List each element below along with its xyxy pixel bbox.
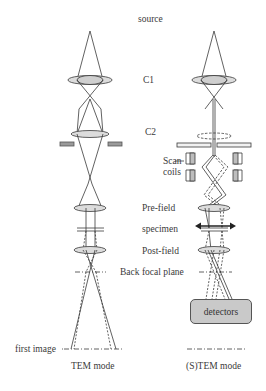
prefield-lens-left <box>74 205 106 212</box>
stem-mode-label: (S)TEM mode <box>186 362 241 372</box>
first-image-label: first image <box>15 345 56 355</box>
c2-lens-left <box>71 131 109 138</box>
c2-aperture-left <box>60 142 74 146</box>
prefield-lens-right <box>198 205 230 212</box>
postfield-lens-left <box>74 247 106 254</box>
c2-aperture-right <box>177 143 211 147</box>
tem-stem-ray-diagram <box>0 0 266 391</box>
postfield-label: Post-field <box>142 247 179 257</box>
tem-mode-label: TEM mode <box>71 362 115 372</box>
bfp-label: Back focal plane <box>120 268 184 278</box>
source-label: source <box>138 15 163 25</box>
tem-column <box>60 31 124 349</box>
detectors-box: detectors <box>190 299 252 324</box>
scan-coils <box>186 153 242 181</box>
c1-label: C1 <box>143 76 154 86</box>
scan-coils-label-line2: coils <box>163 168 181 178</box>
specimen-label: specimen <box>142 225 178 235</box>
detectors-label: detectors <box>204 307 238 317</box>
scan-coils-label-line1: Scan <box>163 157 181 167</box>
prefield-label: Pre-field <box>142 204 175 214</box>
c2-label: C2 <box>145 128 156 138</box>
c2-lens-right <box>197 133 231 139</box>
